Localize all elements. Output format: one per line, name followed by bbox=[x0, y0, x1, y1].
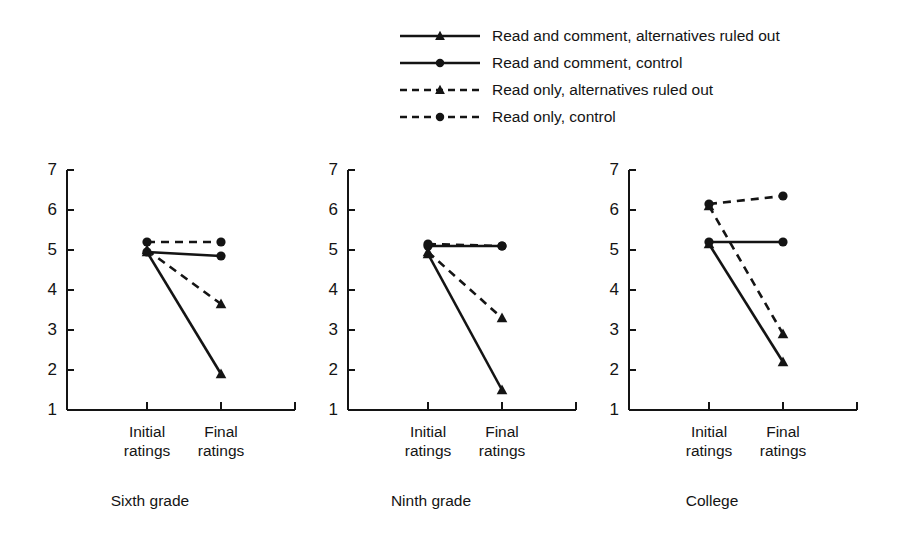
series-line bbox=[147, 250, 221, 304]
data-point bbox=[778, 191, 787, 200]
x-axis-tick-label: Finalratings bbox=[738, 422, 828, 460]
plot-area: 1234567InitialratingsFinalratings bbox=[0, 0, 300, 460]
data-point bbox=[142, 237, 151, 246]
data-point bbox=[423, 239, 432, 248]
panel-svg bbox=[0, 0, 300, 460]
data-point bbox=[704, 237, 713, 246]
panel-svg bbox=[562, 0, 862, 460]
x-axis-tick-label: Finalratings bbox=[457, 422, 547, 460]
panel-sixth-grade: 1234567InitialratingsFinalratings Sixth … bbox=[0, 0, 300, 540]
panel-title: College bbox=[562, 492, 862, 510]
y-axis-tick-label: 1 bbox=[31, 401, 57, 418]
y-axis-tick-label: 2 bbox=[31, 361, 57, 378]
data-point bbox=[497, 241, 506, 250]
plot-area: 1234567InitialratingsFinalratings bbox=[562, 0, 862, 460]
panel-title: Sixth grade bbox=[0, 492, 300, 510]
y-axis-tick-label: 5 bbox=[31, 241, 57, 258]
y-axis-tick-label: 6 bbox=[31, 201, 57, 218]
y-axis-tick-label: 3 bbox=[312, 321, 338, 338]
series-line bbox=[428, 252, 502, 318]
data-point bbox=[142, 247, 151, 256]
y-axis-tick-label: 7 bbox=[593, 161, 619, 178]
series-line bbox=[709, 244, 783, 362]
data-point bbox=[497, 312, 508, 322]
data-point bbox=[704, 199, 713, 208]
panel-title: Ninth grade bbox=[281, 492, 581, 510]
y-axis-tick-label: 5 bbox=[593, 241, 619, 258]
series-line bbox=[709, 196, 783, 204]
plot-area: 1234567InitialratingsFinalratings bbox=[281, 0, 581, 460]
y-axis-tick-label: 7 bbox=[312, 161, 338, 178]
y-axis-tick-label: 7 bbox=[31, 161, 57, 178]
y-axis-tick-label: 4 bbox=[312, 281, 338, 298]
y-axis-tick-label: 2 bbox=[312, 361, 338, 378]
panel-svg bbox=[281, 0, 581, 460]
y-axis-tick-label: 3 bbox=[31, 321, 57, 338]
panel-ninth-grade: 1234567InitialratingsFinalratings Ninth … bbox=[281, 0, 581, 540]
series-line bbox=[709, 206, 783, 334]
y-axis-tick-label: 6 bbox=[312, 201, 338, 218]
y-axis-tick-label: 2 bbox=[593, 361, 619, 378]
y-axis-tick-label: 4 bbox=[593, 281, 619, 298]
y-axis-tick-label: 1 bbox=[593, 401, 619, 418]
series-line bbox=[147, 252, 221, 256]
data-point bbox=[778, 237, 787, 246]
y-axis-tick-label: 4 bbox=[31, 281, 57, 298]
data-point bbox=[216, 251, 225, 260]
figure: Read and comment, alternatives ruled out… bbox=[0, 0, 902, 540]
y-axis-tick-label: 6 bbox=[593, 201, 619, 218]
data-point bbox=[216, 237, 225, 246]
series-line bbox=[428, 254, 502, 390]
panel-college: 1234567InitialratingsFinalratings Colleg… bbox=[562, 0, 862, 540]
y-axis-tick-label: 5 bbox=[312, 241, 338, 258]
x-axis-tick-label: Finalratings bbox=[176, 422, 266, 460]
y-axis-tick-label: 3 bbox=[593, 321, 619, 338]
series-line bbox=[147, 252, 221, 374]
y-axis-tick-label: 1 bbox=[312, 401, 338, 418]
data-point bbox=[497, 384, 508, 394]
